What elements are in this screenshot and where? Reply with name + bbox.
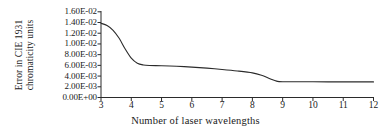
x-axis-tick-label: 3 xyxy=(89,99,113,111)
y-axis-ticks xyxy=(98,12,102,98)
x-axis-tick-labels: 3456789101112 xyxy=(0,99,391,113)
axis-lines xyxy=(101,11,374,98)
x-axis-tick-label: 7 xyxy=(210,99,234,111)
data-series-group xyxy=(101,23,374,82)
x-axis-tick-label: 5 xyxy=(150,99,174,111)
x-axis-tick-label: 12 xyxy=(362,99,386,111)
x-axis-tick-label: 11 xyxy=(331,99,355,111)
x-axis-title: Number of laser wavelengths xyxy=(0,114,391,127)
series-line-0 xyxy=(101,23,374,82)
x-axis-tick-label: 4 xyxy=(119,99,143,111)
x-axis-tick-label: 8 xyxy=(240,99,264,111)
x-axis-tick-label: 10 xyxy=(301,99,325,111)
x-axis-tick-label: 9 xyxy=(271,99,295,111)
x-axis-tick-label: 6 xyxy=(180,99,204,111)
chart-figure: Error in CIE 1931 chromaticity units 0.0… xyxy=(0,0,391,135)
